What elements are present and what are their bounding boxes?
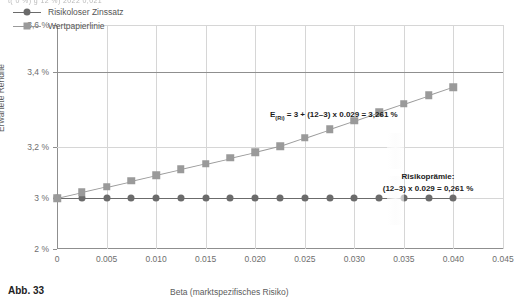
- legend-marker-icon: [13, 6, 41, 18]
- data-point-marker: [78, 189, 86, 197]
- gridline-vertical: [354, 25, 355, 249]
- y-axis-tickmark: [53, 249, 57, 250]
- gridline-vertical: [156, 25, 157, 249]
- legend-marker-icon: [13, 20, 41, 32]
- y-axis-tick-label: 3,4 %: [5, 67, 49, 77]
- gridline-vertical: [107, 25, 108, 249]
- x-axis-tick-label: 0.045: [492, 254, 513, 264]
- gridline-vertical: [206, 25, 207, 249]
- data-point-marker: [425, 195, 432, 202]
- data-point-marker: [326, 195, 333, 202]
- x-axis-tick-label: 0.035: [393, 254, 414, 264]
- data-point-marker: [251, 148, 259, 156]
- data-point-marker: [152, 171, 160, 179]
- data-point-marker: [153, 195, 160, 202]
- chart-legend: Risikoloser ZinssatzWertpapierlinie: [13, 5, 124, 33]
- data-point-marker: [276, 142, 284, 150]
- data-point-marker: [301, 134, 309, 142]
- risk-premium-value: (12–3) x 0.029 = 0,261 %: [383, 183, 474, 195]
- data-point-marker: [128, 195, 135, 202]
- gridline-horizontal: [57, 72, 503, 73]
- data-point-marker: [177, 166, 185, 174]
- data-point-marker: [450, 195, 457, 202]
- x-axis-tick-label: 0.040: [443, 254, 464, 264]
- data-point-marker: [53, 194, 61, 202]
- y-axis-tick-label: 2 %: [5, 244, 49, 254]
- x-axis-tick-label: 0.020: [245, 254, 266, 264]
- data-point-marker: [376, 195, 383, 202]
- gridline-vertical: [255, 25, 256, 249]
- legend-item-label: Risikoloser Zinssatz: [48, 7, 124, 17]
- data-point-marker: [425, 92, 433, 100]
- annotation-capm-formula: E(Ri) = 3 + (12–3) x 0.029 = 3,261 %: [270, 109, 398, 123]
- data-point-marker: [252, 195, 259, 202]
- x-axis-tick-label: 0.030: [344, 254, 365, 264]
- data-point-marker: [128, 177, 136, 185]
- capm-formula-subscript: (Ri): [275, 115, 284, 121]
- risk-premium-title: Risikoprämie:: [383, 171, 474, 183]
- data-point-marker: [400, 100, 408, 108]
- data-point-marker: [202, 195, 209, 202]
- x-axis-tick-label: 0: [55, 254, 60, 264]
- y-axis-tick-label: 3,2 %: [5, 142, 49, 152]
- y-axis-line: [57, 25, 58, 249]
- gridline-horizontal: [57, 25, 503, 26]
- data-point-marker: [227, 154, 235, 162]
- annotation-risk-premium: Risikoprämie: (12–3) x 0.029 = 0,261 %: [383, 171, 474, 194]
- data-point-marker: [326, 125, 334, 133]
- y-axis-tick-label: 3 %: [5, 193, 49, 203]
- gridline-vertical: [503, 25, 504, 249]
- data-point-marker: [277, 195, 284, 202]
- data-point-marker: [103, 183, 111, 191]
- data-point-marker: [450, 83, 458, 91]
- gridline-vertical: [404, 25, 405, 249]
- chart-plot-area: E(Ri) = 3 + (12–3) x 0.029 = 3,261 % Ris…: [57, 25, 503, 249]
- x-axis-line: [57, 248, 503, 249]
- x-axis-tick-label: 0.025: [294, 254, 315, 264]
- legend-item-label: Wertpapierlinie: [48, 21, 105, 31]
- data-point-marker: [301, 195, 308, 202]
- data-point-marker: [202, 160, 210, 168]
- legend-item: Wertpapierlinie: [13, 19, 124, 33]
- legend-item: Risikoloser Zinssatz: [13, 5, 124, 19]
- x-axis-tick-label: 0.010: [145, 254, 166, 264]
- data-point-marker: [227, 195, 234, 202]
- gridline-vertical: [453, 25, 454, 249]
- data-point-marker: [103, 195, 110, 202]
- x-axis-tick-label: 0.015: [195, 254, 216, 264]
- data-point-marker: [177, 195, 184, 202]
- capm-formula-body: = 3 + (12–3) x 0.029 = 3,261 %: [285, 110, 398, 119]
- x-axis-tick-label: 0.005: [96, 254, 117, 264]
- data-point-marker: [351, 195, 358, 202]
